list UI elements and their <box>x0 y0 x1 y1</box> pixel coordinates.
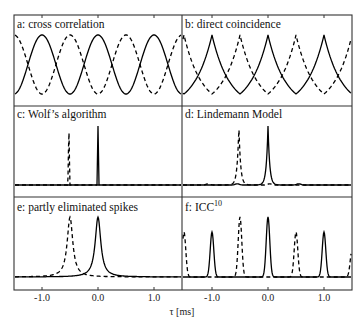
panel-e-title: e: partly eliminated spikes <box>17 201 139 214</box>
tick-label: 1.0 <box>318 292 331 303</box>
panel-a-title: a: cross correlation <box>17 18 105 30</box>
tick-label: 0.0 <box>262 292 275 303</box>
tick-label: 0.0 <box>92 292 105 303</box>
panel-d-solid-curve <box>183 126 351 185</box>
panel-b-title: b: direct coincidence <box>185 18 281 30</box>
panel-f-solid-curve <box>183 217 351 277</box>
panel-a-solid-curve <box>15 35 181 94</box>
panel-a-dashed-curve <box>15 35 181 94</box>
panel-c-title: c: Wolf’s algorithm <box>17 108 107 121</box>
tick-label: 1.0 <box>148 292 161 303</box>
x-ticks <box>42 15 324 290</box>
figure: a: cross correlation b: direct coinciden… <box>0 0 364 326</box>
tick-label: -1.0 <box>34 292 50 303</box>
panel-e-dashed-curve <box>15 217 181 277</box>
panel-d-title: d: Lindemann Model <box>185 108 282 120</box>
x-axis-label: τ [ms] <box>170 306 195 317</box>
panel-f-title: f: ICC10 <box>185 199 222 213</box>
panel-b-solid-curve <box>183 35 351 94</box>
panel-frame <box>14 15 352 290</box>
data-curves <box>15 35 351 277</box>
tick-label: -1.0 <box>204 292 220 303</box>
panel-e-solid-curve <box>15 217 181 277</box>
panel-c-solid-curve <box>15 126 181 185</box>
